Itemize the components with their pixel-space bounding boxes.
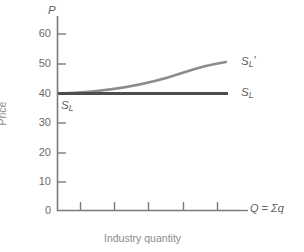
series-label-sl-inline-sub: L [69,103,74,113]
y-axis-name-label: Price [0,102,7,135]
y-tick-label-30: 30 [31,117,51,128]
x-axis-name-label: Industry quantity [104,233,181,244]
series-sl-prime-curve [58,62,226,94]
x-axis-ticks [81,202,218,211]
series-label-sl-inline: SL [61,100,73,113]
y-tick-label-40: 40 [31,88,51,99]
series-label-sl-right-sub: L [249,90,254,100]
y-tick-label-0: 0 [31,205,51,216]
y-tick-label-20: 20 [31,147,51,158]
chart-figure: 60 50 40 30 20 10 0 P Q = Σq Price Indus… [0,0,304,252]
x-axis-symbol-label: Q = Σq [250,203,284,214]
series-label-sl-right: SL [241,87,253,100]
y-tick-label-10: 10 [31,176,51,187]
y-tick-label-60: 60 [31,28,51,39]
series-label-sl-prime-base: S [241,55,249,67]
y-tick-label-50: 50 [31,58,51,69]
series-label-sl-prime-right: SL′ [241,55,256,69]
series-label-sl-inline-base: S [61,99,69,111]
series-label-sl-prime-mark: ′ [253,54,255,66]
series-label-sl-right-base: S [241,86,249,98]
y-axis-symbol-label: P [48,5,56,17]
